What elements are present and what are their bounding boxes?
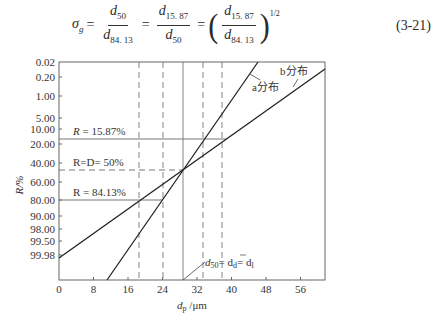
y-tick-label: 90.00 [30, 210, 55, 222]
y-axis: 0.02 0.20 1.00 5.00 10.00 20.00 40.00 60… [30, 56, 62, 261]
x-tick-label: 48 [261, 283, 273, 295]
b-label-leader [293, 79, 298, 87]
r-15-87-label: R = 15.87% [72, 125, 125, 137]
x-tick-label: 16 [123, 283, 135, 295]
y-tick-label: 98.00 [30, 223, 55, 235]
r-50-label: R=D= 50% [73, 156, 124, 168]
y-tick-label: 60.00 [30, 176, 55, 188]
y-tick-label: 99.50 [30, 235, 55, 247]
x-tick-label: 8 [91, 283, 97, 295]
y-tick-label: 1.00 [36, 90, 56, 102]
y-tick-label: 0.02 [36, 56, 55, 68]
x-tick-label: 0 [56, 283, 62, 295]
y-tick-label: 10.00 [30, 123, 55, 135]
y-tick-label: 20.00 [30, 138, 55, 150]
d50-annotation: d50= dd= dl [205, 256, 254, 270]
y-tick-label: 40.00 [30, 157, 55, 169]
r-84-13-label: R = 84.13% [73, 186, 126, 198]
x-tick-label: 40 [226, 283, 238, 295]
x-tick-label: 32 [192, 283, 203, 295]
x-axis-label: dp /μm [177, 299, 207, 313]
y-axis-label: R/% [13, 176, 25, 196]
d50-leader [183, 262, 205, 280]
plot-frame [59, 62, 325, 280]
y-tick-label: 0.20 [36, 71, 56, 83]
x-tick-label: 24 [157, 283, 169, 295]
probability-chart: 0.02 0.20 1.00 5.00 10.00 20.00 40.00 60… [0, 0, 443, 315]
y-tick-label: 99.98 [30, 249, 55, 261]
a-distribution-label: a分布 [252, 81, 279, 93]
x-tick-label: 56 [295, 283, 307, 295]
a-label-leader [250, 74, 260, 80]
y-tick-label: 80.00 [30, 194, 55, 206]
b-distribution-label: b分布 [280, 65, 308, 77]
